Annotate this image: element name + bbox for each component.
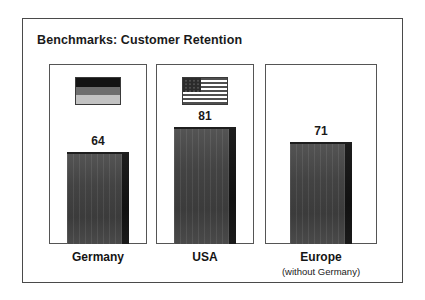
flag-band-black <box>76 78 120 87</box>
category-label-usa: USA <box>156 250 254 264</box>
chart-title: Benchmarks: Customer Retention <box>37 33 242 47</box>
flag-stars <box>183 78 201 92</box>
bar-value-europe: 71 <box>290 124 352 138</box>
bar-side-shadow <box>345 144 352 244</box>
usa-flag-icon <box>182 77 228 105</box>
category-label-germany: Germany <box>49 250 147 264</box>
category-group-usa: 81 USA <box>156 64 254 282</box>
bar-germany[interactable] <box>67 152 129 244</box>
bar-texture <box>67 154 129 244</box>
chart-frame: Benchmarks: Customer Retention 64 German… <box>22 18 403 283</box>
category-group-germany: 64 Germany <box>49 64 147 282</box>
bar-value-usa: 81 <box>174 109 236 123</box>
category-label-europe: Europe <box>265 250 377 264</box>
category-group-europe: 71 Europe (without Germany) <box>265 64 377 282</box>
bar-side-shadow <box>229 129 236 244</box>
bar-side-shadow <box>122 154 129 244</box>
category-sublabel-europe: (without Germany) <box>265 266 377 277</box>
bar-usa[interactable] <box>174 127 236 244</box>
flag-band-red <box>76 87 120 96</box>
bar-value-germany: 64 <box>67 134 129 148</box>
flag-canton <box>183 78 201 92</box>
bar-texture <box>174 129 236 244</box>
german-flag-icon <box>75 77 121 105</box>
bar-panels-row: 64 Germany 81 <box>23 64 402 282</box>
flag-band-gold <box>76 95 120 104</box>
bar-texture <box>290 144 352 244</box>
bar-europe[interactable] <box>290 142 352 244</box>
